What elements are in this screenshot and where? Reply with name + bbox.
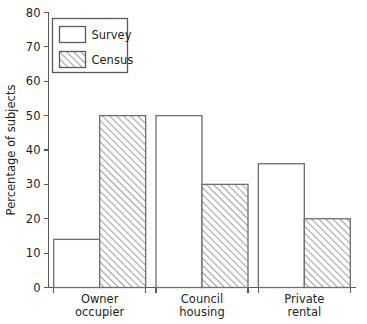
bar-survey-2 (156, 116, 202, 288)
bar-census-3 (304, 219, 350, 288)
category-labels: OwneroccupierCouncilhousingPrivaterental (75, 292, 324, 319)
legend-swatch-survey[interactable] (60, 27, 86, 43)
bar-census-1 (100, 116, 146, 288)
x-category-label: Owneroccupier (75, 292, 125, 319)
y-tick-label: 10 (26, 246, 41, 260)
x-category-label: Councilhousing (179, 292, 224, 319)
legend-label-survey: Survey (92, 28, 132, 42)
y-tick-label: 30 (26, 177, 41, 191)
bar-survey-1 (54, 239, 100, 287)
chart-canvas: 01020304050607080 OwneroccupierCouncilho… (0, 0, 367, 324)
legend-swatch-census[interactable] (60, 52, 86, 68)
x-category-label: Privaterental (284, 292, 324, 319)
bar-survey-3 (258, 164, 304, 288)
y-tick-label: 50 (26, 109, 41, 123)
legend-label-census: Census (92, 53, 134, 67)
y-tick-label: 60 (26, 74, 41, 88)
y-axis-title: Percentage of subjects (4, 85, 18, 216)
bar-census-2 (202, 184, 248, 287)
y-tick-label: 20 (26, 212, 41, 226)
y-tick-label: 0 (33, 281, 40, 295)
y-tick-label: 80 (26, 6, 41, 20)
chart-legend[interactable]: SurveyCensus (53, 19, 134, 73)
bar-chart: 01020304050607080 OwneroccupierCouncilho… (0, 0, 367, 324)
y-tick-label: 70 (26, 40, 41, 54)
y-tick-label: 40 (26, 143, 41, 157)
